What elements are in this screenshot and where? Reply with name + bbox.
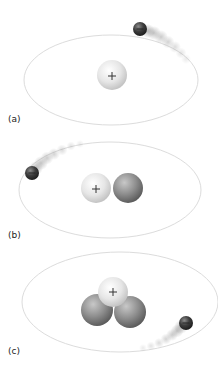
neutron <box>113 173 143 203</box>
atom-diagram-a <box>0 0 218 130</box>
panel-label: (b) <box>8 230 21 240</box>
panel-a: (a) <box>0 0 218 130</box>
atom-diagram-b <box>0 130 218 250</box>
proton <box>97 60 127 90</box>
panel-c: (c) <box>0 250 218 374</box>
proton <box>81 173 111 203</box>
proton <box>98 277 128 307</box>
panel-label: (a) <box>8 114 21 124</box>
electron <box>25 166 39 180</box>
atom-diagram-c <box>0 250 218 374</box>
panel-label: (c) <box>8 346 20 356</box>
electron-trail <box>141 24 191 64</box>
electron <box>179 316 193 330</box>
panel-b: (b) <box>0 130 218 250</box>
electron <box>133 22 147 36</box>
